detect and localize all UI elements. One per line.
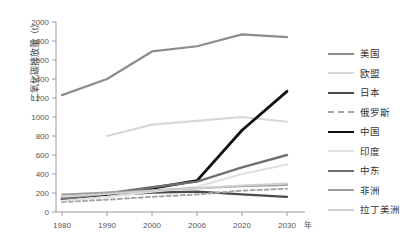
y-tick-label: 0: [45, 208, 50, 217]
legend-swatch: [328, 131, 354, 133]
legend-label: 欧盟: [360, 69, 380, 79]
legend-label: 俄罗斯: [360, 108, 390, 118]
legend-swatch: [328, 111, 354, 113]
legend-swatch: [328, 150, 354, 152]
legend-label: 美国: [360, 49, 380, 59]
x-axis-unit-label: 年: [304, 220, 312, 230]
y-tick-label: 200: [36, 189, 50, 198]
plot-area: 0200400600800100012001400160018002000198…: [0, 0, 318, 246]
legend-swatch: [328, 189, 354, 191]
legend-item-0[interactable]: 美国: [328, 44, 408, 64]
legend: 美国欧盟日本俄罗斯中国印度中东非洲拉丁美洲: [328, 44, 408, 220]
y-tick-label: 600: [36, 151, 50, 160]
x-tick-label: 2006: [188, 221, 206, 230]
legend-item-5[interactable]: 印度: [328, 142, 408, 162]
legend-label: 中国: [360, 127, 380, 137]
legend-item-3[interactable]: 俄罗斯: [328, 103, 408, 123]
series-line-0: [62, 34, 287, 95]
legend-label: 日本: [360, 88, 380, 98]
series-line-1: [107, 117, 287, 136]
legend-label: 拉丁美洲: [360, 205, 400, 215]
x-tick-label: 1990: [98, 221, 116, 230]
legend-item-1[interactable]: 欧盟: [328, 64, 408, 84]
x-tick-label: 2030: [278, 221, 296, 230]
legend-item-6[interactable]: 中东: [328, 161, 408, 181]
y-tick-label: 800: [36, 132, 50, 141]
legend-label: 中东: [360, 166, 380, 176]
legend-label: 印度: [360, 147, 380, 157]
legend-swatch: [328, 53, 354, 55]
legend-swatch: [328, 72, 354, 74]
y-tick-label: 400: [36, 170, 50, 179]
legend-item-4[interactable]: 中国: [328, 122, 408, 142]
legend-swatch: [328, 92, 354, 94]
co2-emissions-line-chart: 0200400600800100012001400160018002000198…: [0, 0, 410, 246]
x-tick-label: 2020: [233, 221, 251, 230]
legend-label: 非洲: [360, 186, 380, 196]
legend-item-7[interactable]: 非洲: [328, 181, 408, 201]
plot-svg: 0200400600800100012001400160018002000198…: [0, 0, 318, 246]
legend-swatch: [328, 209, 354, 211]
legend-item-2[interactable]: 日本: [328, 83, 408, 103]
legend-swatch: [328, 170, 354, 172]
x-tick-label: 2000: [143, 221, 161, 230]
x-tick-label: 1980: [53, 221, 71, 230]
legend-item-8[interactable]: 拉丁美洲: [328, 200, 408, 220]
y-axis-title: 二氧化碳排放量（t）: [28, 1, 41, 121]
